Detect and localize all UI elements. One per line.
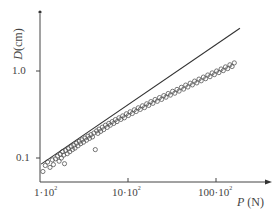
data-point: [232, 61, 236, 65]
x-tick-exp: 2: [229, 185, 232, 191]
x-tick-label-1: 10·102: [112, 186, 141, 198]
data-points: [41, 61, 237, 174]
x-axis-label: P (N): [237, 195, 264, 210]
y-axis-symbol: D: [11, 51, 25, 60]
y-axis-label: D(cm): [3, 22, 33, 66]
x-tick-mantissa: 1·10: [34, 186, 54, 198]
scatter-chart: [0, 0, 280, 212]
x-tick-exp: 2: [138, 185, 141, 191]
data-point: [51, 163, 55, 167]
x-tick-label-2: 100·102: [198, 186, 232, 198]
x-tick-mantissa: 10·10: [112, 186, 138, 198]
data-point: [93, 148, 97, 152]
x-tick-label-0: 1·102: [34, 186, 57, 198]
x-tick-mantissa: 100·10: [198, 186, 229, 198]
y-axis-unit: (cm): [11, 28, 25, 51]
x-axis-arrow-icon: [265, 180, 272, 185]
y-tick-label-0: 0.1: [16, 151, 30, 163]
fit-line: [41, 28, 240, 164]
x-tick-exp: 2: [54, 185, 57, 191]
data-point: [62, 162, 66, 166]
data-point: [41, 169, 45, 173]
x-axis-symbol: P: [237, 195, 244, 209]
y-axis-arrow-icon: [38, 10, 41, 13]
x-axis-unit: (N): [247, 195, 264, 209]
